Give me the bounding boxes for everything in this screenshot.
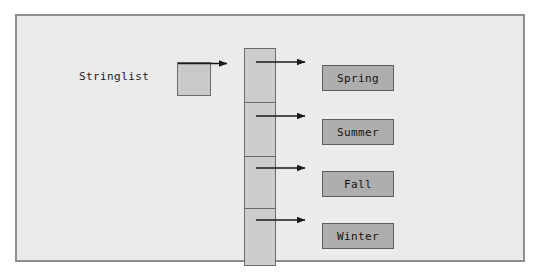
array-cell-0 <box>245 49 275 103</box>
diagram-canvas: Stringlist Spring Summer Fall Winter <box>0 0 540 276</box>
array-cell-3 <box>245 209 275 265</box>
diagram-frame: Stringlist Spring Summer Fall Winter <box>15 14 525 262</box>
value-box-spring: Spring <box>322 65 394 91</box>
value-box-winter: Winter <box>322 223 394 249</box>
array-column <box>244 48 276 266</box>
array-cell-1 <box>245 103 275 157</box>
stringlist-variable-label: Stringlist <box>79 70 149 84</box>
array-cell-2 <box>245 157 275 209</box>
value-box-summer: Summer <box>322 119 394 145</box>
pointer-box <box>177 62 211 96</box>
value-box-fall: Fall <box>322 171 394 197</box>
